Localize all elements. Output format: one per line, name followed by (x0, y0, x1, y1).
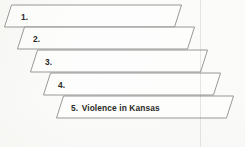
step-label-4: 4. (58, 81, 69, 89)
step-number-3: 3. (45, 57, 52, 67)
step-label-3: 3. (45, 58, 56, 66)
step-text-5: Violence in Kansas (82, 103, 160, 113)
step-number-2: 2. (33, 34, 40, 44)
step-label-1: 1. (21, 13, 32, 21)
step-number-4: 4. (58, 80, 65, 90)
step-number-5: 5. (71, 103, 78, 113)
staircase-diagram (0, 0, 245, 147)
diagram-canvas: 1. 2. 3. 4. 5.Violence in Kansas (0, 0, 245, 147)
step-label-2: 2. (33, 35, 44, 43)
step-shape-2[interactable] (18, 27, 195, 49)
step-shape-4[interactable] (44, 73, 221, 95)
step-number-1: 1. (21, 12, 28, 22)
step-label-5: 5.Violence in Kansas (71, 104, 160, 112)
step-shape-3[interactable] (31, 50, 208, 72)
